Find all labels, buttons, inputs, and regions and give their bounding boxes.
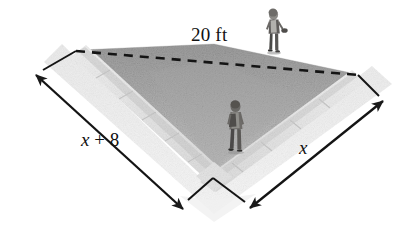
- left-leg-constant: 8: [110, 129, 120, 150]
- left-leg-label: x + 8: [81, 130, 119, 149]
- left-leg-operator: +: [89, 129, 109, 150]
- person-upper-right: [266, 9, 288, 55]
- geometry-figure: 20 ft x + 8 x: [0, 0, 408, 228]
- hypotenuse-label: 20 ft: [191, 25, 227, 44]
- right-leg-label: x: [299, 138, 307, 157]
